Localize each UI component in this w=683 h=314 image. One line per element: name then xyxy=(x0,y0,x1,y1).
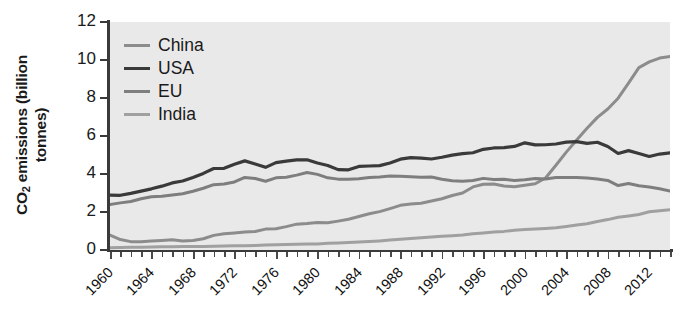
x-tick-label-1964: 1964 xyxy=(123,264,157,298)
y-tick-label-12: 12 xyxy=(58,11,96,31)
y-tick-0 xyxy=(100,249,108,251)
legend-item-eu: EU xyxy=(124,80,204,103)
chart-legend: China USA EU India xyxy=(124,34,204,126)
x-tick-label-1972: 1972 xyxy=(206,264,240,298)
legend-label-usa: USA xyxy=(158,60,194,78)
subscript-2: 2 xyxy=(20,186,32,192)
y-tick-12 xyxy=(100,21,108,23)
legend-swatch-india xyxy=(124,113,150,116)
legend-item-china: China xyxy=(124,34,204,57)
x-tick-label-1976: 1976 xyxy=(248,264,282,298)
series-line-usa xyxy=(110,142,670,196)
y-tick-label-8: 8 xyxy=(58,87,96,107)
x-tick-label-1992: 1992 xyxy=(414,264,448,298)
y-axis-title-line1: CO2 emissions (billion xyxy=(13,55,30,215)
y-tick-label-2: 2 xyxy=(58,201,96,221)
y-tick-6 xyxy=(100,135,108,137)
legend-item-india: India xyxy=(124,103,204,126)
legend-swatch-china xyxy=(124,44,150,47)
y-tick-10 xyxy=(100,59,108,61)
x-tick-label-2004: 2004 xyxy=(538,264,572,298)
x-tick-label-1968: 1968 xyxy=(165,264,199,298)
co2-emissions-line-chart: CO2 emissions (billion tonnes) 024681012… xyxy=(0,0,683,314)
legend-label-eu: EU xyxy=(158,83,182,101)
y-axis-title: CO2 emissions (billion tonnes) xyxy=(0,0,62,270)
x-tick-label-2000: 2000 xyxy=(497,264,531,298)
y-tick-label-6: 6 xyxy=(58,125,96,145)
y-axis-title-line2: tonnes) xyxy=(32,55,49,215)
y-axis-tick-labels: 024681012 xyxy=(58,0,104,270)
x-tick-label-1984: 1984 xyxy=(331,264,365,298)
x-tick-label-1980: 1980 xyxy=(289,264,323,298)
y-tick-2 xyxy=(100,211,108,213)
x-tick-label-1996: 1996 xyxy=(455,264,489,298)
x-tick-label-1988: 1988 xyxy=(372,264,406,298)
legend-item-usa: USA xyxy=(124,57,204,80)
legend-swatch-usa xyxy=(124,67,150,70)
x-tick-label-2012: 2012 xyxy=(621,264,655,298)
y-tick-label-4: 4 xyxy=(58,163,96,183)
y-tick-label-10: 10 xyxy=(58,49,96,69)
series-line-india xyxy=(110,210,670,248)
y-tick-4 xyxy=(100,173,108,175)
y-tick-8 xyxy=(100,97,108,99)
legend-label-china: China xyxy=(158,37,204,55)
legend-swatch-eu xyxy=(124,90,150,93)
legend-label-india: India xyxy=(158,106,196,124)
x-tick-label-2008: 2008 xyxy=(580,264,614,298)
x-axis-tick-labels: 1960196419681972197619801984198819921996… xyxy=(0,255,683,314)
x-tick-label-1960: 1960 xyxy=(82,264,116,298)
